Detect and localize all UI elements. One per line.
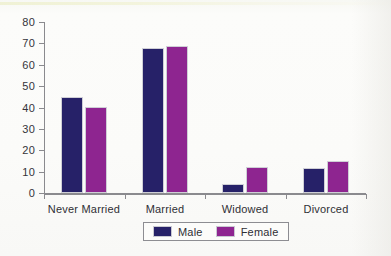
y-axis-tick: 30 (39, 129, 44, 130)
y-axis-tick: 40 (39, 108, 44, 109)
y-axis-tick-label: 20 (22, 144, 35, 156)
x-axis-tick (366, 194, 367, 199)
y-axis-tick-label: 0 (29, 187, 35, 199)
y-axis-tick-label: 50 (22, 80, 35, 92)
category-label-never-married: Never Married (48, 203, 120, 215)
y-axis-line (44, 22, 45, 194)
x-axis-tick (205, 194, 206, 199)
bar-female-married (166, 46, 188, 193)
category-label-widowed: Widowed (222, 203, 269, 215)
y-axis-tick: 80 (39, 22, 44, 23)
y-axis-tick-label: 60 (22, 59, 35, 71)
bar-female-widowed (246, 167, 268, 193)
x-axis-tick (286, 194, 287, 199)
y-axis-tick-label: 40 (22, 102, 35, 114)
bar-male-married (142, 48, 164, 193)
legend-swatch-male (153, 226, 172, 237)
y-axis-tick-label: 30 (22, 123, 35, 135)
chart-legend: MaleFemale (143, 222, 289, 241)
bar-male-never-married (61, 97, 83, 193)
legend-label-male: Male (178, 226, 203, 238)
y-axis-tick: 20 (39, 150, 44, 151)
bar-female-divorced (327, 161, 349, 193)
bar-male-widowed (222, 184, 244, 193)
chart-page: 80706050403020100 Never MarriedMarriedWi… (0, 0, 391, 256)
y-axis-tick: 10 (39, 172, 44, 173)
legend-item-female[interactable]: Female (216, 226, 279, 238)
x-axis-tick (125, 194, 126, 199)
y-axis-tick-label: 70 (22, 37, 35, 49)
category-label-divorced: Divorced (303, 203, 348, 215)
bar-male-divorced (303, 168, 325, 193)
plot-area: 80706050403020100 (44, 22, 366, 193)
legend-label-female: Female (241, 226, 279, 238)
category-label-married: Married (146, 203, 185, 215)
y-axis-tick-label: 80 (22, 16, 35, 28)
legend-swatch-female (216, 226, 235, 237)
scan-artifact-streak (0, 2, 391, 5)
y-axis-tick: 60 (39, 65, 44, 66)
x-axis-tick (44, 194, 45, 199)
bar-female-never-married (85, 107, 107, 193)
y-axis-tick: 70 (39, 43, 44, 44)
y-axis-tick-label: 10 (22, 166, 35, 178)
legend-item-male[interactable]: Male (153, 226, 203, 238)
y-axis-tick: 50 (39, 86, 44, 87)
